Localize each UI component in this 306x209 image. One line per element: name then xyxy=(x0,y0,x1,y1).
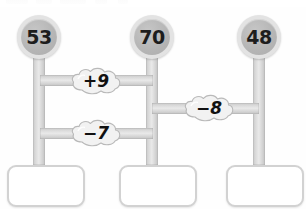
node-circle-inner: 53 xyxy=(21,19,57,55)
clipped-ui-fragment xyxy=(95,0,107,4)
clipped-ui-fragment xyxy=(36,0,52,4)
node-value: 70 xyxy=(139,28,164,47)
pipe-vertical-left xyxy=(33,42,45,165)
node-value: 48 xyxy=(246,28,271,47)
worksheet-canvas: 53 70 48 +9 −7 −8 xyxy=(0,0,306,209)
operation-cloud-minus-8[interactable]: −8 xyxy=(182,93,236,123)
answer-value xyxy=(9,167,83,205)
node-circle-inner: 48 xyxy=(241,19,277,55)
clipped-top-strip xyxy=(0,0,306,7)
node-circle-70[interactable]: 70 xyxy=(130,15,174,59)
operation-label: +9 xyxy=(83,72,109,89)
node-circle-53[interactable]: 53 xyxy=(17,15,61,59)
operation-cloud-minus-7[interactable]: −7 xyxy=(69,118,123,148)
answer-value xyxy=(121,167,195,205)
answer-value xyxy=(228,167,302,205)
answer-box-right[interactable] xyxy=(226,165,304,207)
operation-label: −7 xyxy=(83,124,109,141)
operation-label: −8 xyxy=(196,99,222,116)
clipped-ui-fragment xyxy=(118,0,128,4)
node-circle-inner: 70 xyxy=(134,19,170,55)
clipped-ui-fragment xyxy=(6,0,28,4)
answer-box-left[interactable] xyxy=(7,165,85,207)
node-value: 53 xyxy=(26,28,51,47)
answer-box-middle[interactable] xyxy=(119,165,197,207)
clipped-ui-fragment xyxy=(60,0,86,4)
operation-cloud-plus-9[interactable]: +9 xyxy=(69,66,123,96)
node-circle-48[interactable]: 48 xyxy=(237,15,281,59)
